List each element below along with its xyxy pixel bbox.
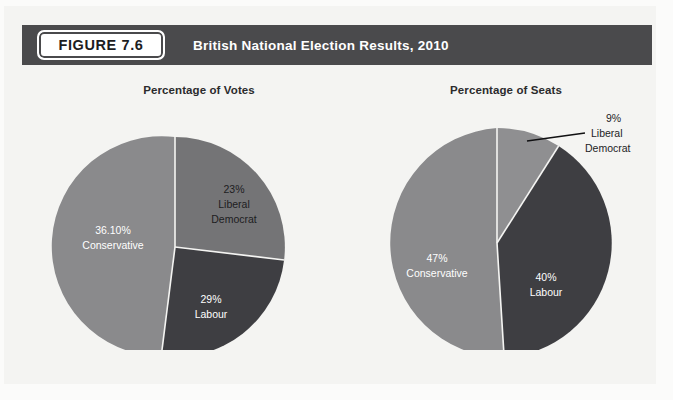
figure-header-bar: FIGURE 7.6 British National Election Res… (22, 25, 652, 65)
figure-number-badge: FIGURE 7.6 (37, 30, 165, 60)
slice-label-libdem-pct-votes: 23% (223, 183, 244, 195)
slice-label-labour-name-votes: Labour (195, 308, 228, 320)
figure-number-label: FIGURE 7.6 (59, 37, 144, 53)
slice-label-libdem-name1-votes: Liberal (218, 198, 250, 210)
slice-label-conservative-pct-seats: 47% (426, 252, 447, 264)
votes-pie-svg: 23% Liberal Democrat 29% Labour 36.10% C… (22, 100, 352, 350)
figure-title: British National Election Results, 2010 (193, 38, 449, 53)
callout-label-libdem-name1-seats: Liberal (591, 127, 623, 139)
slice-label-conservative-pct-votes: 36.10% (95, 224, 131, 236)
slice-label-libdem-name2-votes: Democrat (211, 213, 257, 225)
callout-label-libdem-name2-seats: Democrat (585, 142, 631, 154)
seats-pie-svg: 9% Liberal Democrat 40% Labour 47% Conse… (342, 100, 652, 350)
slice-label-conservative-name-votes: Conservative (82, 239, 143, 251)
charts-area: Percentage of Votes 23% Liberal Democrat (22, 72, 652, 378)
figure-panel: FIGURE 7.6 British National Election Res… (0, 0, 673, 400)
slice-label-labour-name-seats: Labour (530, 286, 563, 298)
pie-slice-labour-votes[interactable] (161, 247, 284, 350)
slice-label-labour-pct-seats: 40% (535, 271, 556, 283)
slice-label-labour-pct-votes: 29% (200, 293, 221, 305)
chart-title-votes: Percentage of Votes (22, 84, 352, 96)
pie-slice-conservative-seats[interactable] (390, 128, 504, 350)
chart-title-seats: Percentage of Seats (342, 84, 652, 96)
slice-label-conservative-name-seats: Conservative (406, 267, 467, 279)
callout-label-libdem-pct-seats: 9% (606, 112, 621, 124)
